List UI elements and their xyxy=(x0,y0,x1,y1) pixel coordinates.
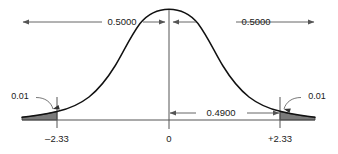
right-tail-callout: 0.01 xyxy=(284,91,326,109)
right-tail-area-label: 0.01 xyxy=(308,91,326,101)
axis-tick-label-left: –2.33 xyxy=(45,133,69,144)
axis-tick-label-right: +2.33 xyxy=(268,133,292,144)
left-tail-leader-line xyxy=(36,98,53,110)
left-half-dimension-line: 0.5000 xyxy=(23,16,165,27)
left-tail-callout: 0.01 xyxy=(11,91,53,109)
axis-tick-label-center: 0 xyxy=(166,133,171,144)
left-tail-area-label: 0.01 xyxy=(11,91,29,101)
normal-distribution-figure: 0.5000 0.5000 0.4900 0.01 0.01 –2.33 0 +… xyxy=(0,0,338,154)
right-half-dimension-line: 0.5000 xyxy=(173,16,314,27)
left-half-area-label: 0.5000 xyxy=(107,16,136,27)
distribution-chart-canvas: 0.5000 0.5000 0.4900 0.01 0.01 –2.33 0 +… xyxy=(0,0,338,154)
center-to-critical-area-label: 0.4900 xyxy=(206,107,235,118)
center-to-critical-dimension-line: 0.4900 xyxy=(170,107,279,118)
right-tail-leader-line xyxy=(284,98,301,110)
right-half-area-label: 0.5000 xyxy=(241,16,270,27)
